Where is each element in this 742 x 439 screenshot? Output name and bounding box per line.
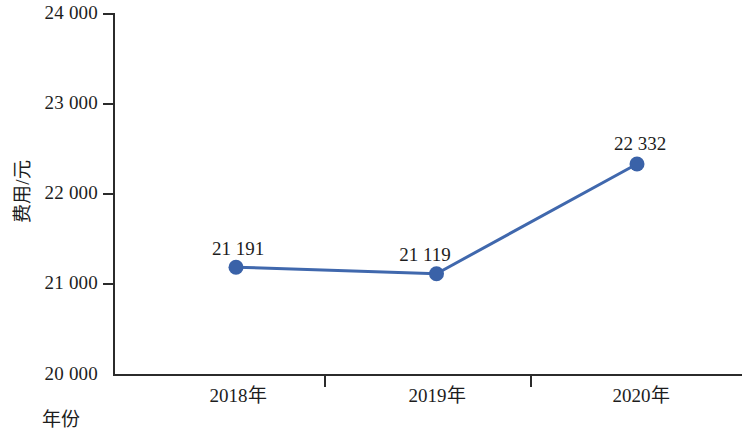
y-axis-line <box>113 13 115 376</box>
x-axis-line <box>113 374 742 376</box>
x-axis-title: 年份 <box>42 409 80 430</box>
data-point-label-2020: 22 332 <box>575 133 705 155</box>
line-chart: 费用/元 24 000 23 000 22 000 21 000 20 000 … <box>0 0 742 439</box>
data-point-marker <box>229 260 244 275</box>
y-tick-label-22000: 22 000 <box>2 182 98 204</box>
data-point-label-2018: 21 191 <box>173 238 303 260</box>
y-tick-label-21000: 21 000 <box>2 272 98 294</box>
y-tick-label-23000: 23 000 <box>2 92 98 114</box>
x-category-label-2018: 2018年 <box>158 380 318 407</box>
y-tick-label-20000: 20 000 <box>2 363 98 385</box>
data-point-label-2019: 21 119 <box>360 244 490 266</box>
x-tick-mark-1 <box>324 376 326 387</box>
x-tick-mark-2 <box>530 376 532 387</box>
data-point-marker <box>630 157 645 172</box>
x-category-label-2019: 2019年 <box>357 380 517 407</box>
x-category-label-2020: 2020年 <box>561 380 721 407</box>
data-point-marker <box>429 266 444 281</box>
x-axis-title-wrapper: 年份 <box>0 404 742 431</box>
y-tick-label-24000: 24 000 <box>2 2 98 24</box>
